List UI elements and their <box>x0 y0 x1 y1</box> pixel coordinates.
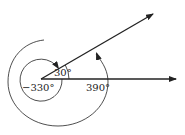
angle-diagram: 30° −330° 390° <box>0 0 185 135</box>
label-390-degrees: 390° <box>86 82 110 93</box>
label-30-degrees: 30° <box>54 67 72 78</box>
outer-spiral-arrowhead <box>97 53 100 60</box>
label-negative-330-degrees: −330° <box>22 82 54 93</box>
arc-negative-330-degrees <box>20 59 62 101</box>
